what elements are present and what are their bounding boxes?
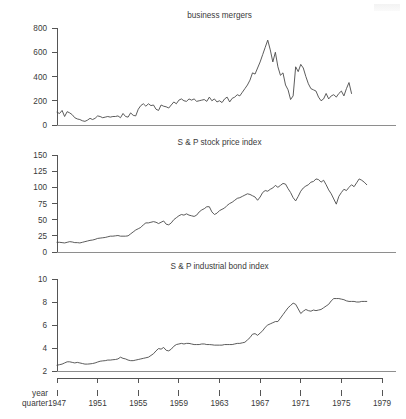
scan-artifact — [374, 4, 400, 11]
y-tick-label-2-2: 50 — [38, 216, 48, 225]
x-tick-label-0: 1947 — [48, 399, 67, 408]
panel-1: business mergers0200400600800 — [33, 11, 396, 130]
y-tick-label-3-0: 2 — [42, 367, 47, 376]
y-tick-label-1-4: 800 — [33, 24, 47, 33]
y-tick-label-2-4: 100 — [33, 183, 47, 192]
x-tick-label-4: 1963 — [210, 399, 229, 408]
x-axis: 194719511955195919631967197119751979year… — [22, 378, 392, 408]
y-tick-label-2-3: 75 — [38, 200, 48, 209]
y-tick-label-1-2: 400 — [33, 73, 47, 82]
x-tick-label-2: 1955 — [129, 399, 148, 408]
series-line-2 — [57, 179, 367, 243]
x-axis-name-year: year — [32, 389, 48, 398]
y-tick-label-3-1: 4 — [42, 344, 47, 353]
panel-title-2: S & P stock price index — [177, 138, 261, 147]
x-tick-label-8: 1979 — [373, 399, 392, 408]
x-tick-label-7: 1975 — [332, 399, 351, 408]
x-tick-label-1: 1951 — [89, 399, 108, 408]
series-line-3 — [57, 299, 367, 366]
panel-3: S & P industrial bond index246810 — [38, 262, 396, 376]
y-tick-label-1-1: 200 — [33, 97, 47, 106]
x-tick-label-5: 1967 — [251, 399, 270, 408]
panel-title-1: business mergers — [187, 11, 252, 20]
y-tick-label-2-0: 0 — [42, 248, 47, 257]
y-tick-label-2-1: 25 — [38, 232, 48, 241]
y-tick-label-3-2: 6 — [42, 321, 47, 330]
series-line-1 — [57, 40, 352, 121]
y-tick-label-3-4: 10 — [38, 275, 48, 284]
panel-title-3: S & P industrial bond index — [170, 262, 268, 271]
chart-canvas: business mergers0200400600800S & P stock… — [0, 0, 406, 419]
x-tick-label-6: 1971 — [292, 399, 311, 408]
x-axis-name-quarter: quarter — [22, 399, 48, 408]
y-tick-label-3-3: 8 — [42, 298, 47, 307]
panel-2: S & P stock price index0255075100125150 — [33, 138, 396, 257]
x-tick-label-3: 1959 — [170, 399, 189, 408]
y-tick-label-1-0: 0 — [42, 121, 47, 130]
y-tick-label-1-3: 600 — [33, 48, 47, 57]
y-tick-label-2-6: 150 — [33, 151, 47, 160]
time-series-figure: business mergers0200400600800S & P stock… — [0, 0, 406, 419]
y-tick-label-2-5: 125 — [33, 167, 47, 176]
